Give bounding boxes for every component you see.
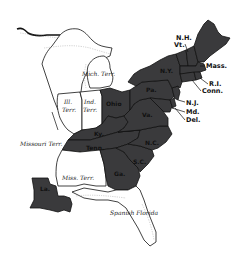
label-ohio: Ohio	[106, 100, 122, 107]
label-delaware: Del.	[186, 116, 201, 124]
label-miss-terr: Miss. Terr.	[61, 174, 94, 181]
label-south-carolina: S.C.	[133, 158, 146, 165]
label-virginia: Va.	[142, 111, 153, 118]
label-ill-terr-1: Ill.	[63, 98, 72, 105]
label-maryland: Md.	[186, 108, 200, 116]
state-maine-district	[194, 20, 230, 62]
label-spanish-florida: Spanish Florida	[110, 209, 158, 217]
state-new-jersey	[172, 86, 180, 100]
label-ind-terr-1: Ind.	[83, 98, 96, 105]
label-ill-terr-2: Terr.	[62, 106, 76, 113]
historical-us-map: Mich. Terr. Ill. Terr. Ind. Terr. Missou…	[0, 0, 245, 273]
label-missouri-terr: Missouri Terr.	[19, 140, 63, 147]
label-kentucky: Ky.	[94, 130, 104, 138]
label-ind-terr-2: Terr.	[83, 106, 97, 113]
label-tennessee: Tenn.	[86, 144, 104, 151]
label-new-york: N.Y.	[160, 67, 173, 74]
label-connecticut: Conn.	[202, 87, 223, 95]
label-north-carolina: N.C.	[145, 139, 159, 146]
label-georgia: Ga.	[114, 170, 125, 177]
state-connecticut	[180, 72, 196, 82]
label-vermont: Vt.	[174, 41, 185, 49]
spanish-florida-region	[72, 186, 156, 246]
label-pennsylvania: Pa.	[146, 86, 157, 93]
label-massachusetts: Mass.	[206, 62, 227, 70]
label-new-jersey: N.J.	[186, 99, 199, 107]
lake-superior-shore	[17, 28, 60, 35]
label-mich-terr: Mich. Terr.	[81, 70, 115, 77]
label-louisiana: La.	[40, 185, 50, 192]
